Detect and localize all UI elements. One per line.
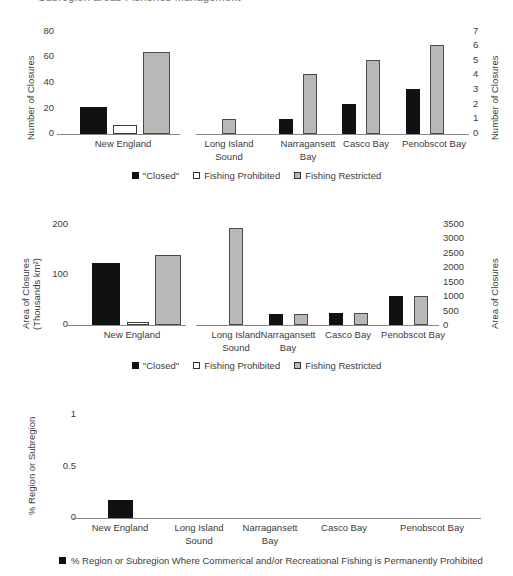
- chart2-xlabel-penobscot-bay: Penobscot Bay: [367, 329, 459, 341]
- restricted-swatch-icon: [294, 172, 301, 179]
- chart1-xlabel-narragansett-line2: Bay: [258, 151, 358, 163]
- chart-closures-area: Area of Closures (Thousands km²) Area of…: [0, 212, 513, 382]
- chart1-ytick-right-0: 0: [473, 127, 489, 138]
- chart-percent-prohibited: % Region or Subregion 1 0.5 0 New Englan…: [0, 400, 513, 576]
- chart2-ytick-right-500: 500: [443, 305, 477, 316]
- chart2-bar-narragansett-restricted: [294, 314, 308, 325]
- prohibited-swatch-icon: [193, 172, 200, 179]
- chart2-y-axis-title-left-units: (Thousands km²): [31, 240, 43, 348]
- chart2-legend: "Closed" Fishing Prohibited Fishing Rest…: [0, 360, 513, 371]
- chart2-bar-penobscot-restricted: [414, 296, 428, 325]
- chart2-legend-item-closed: "Closed": [132, 360, 179, 371]
- chart1-y-axis-title-right: Number of Closures: [490, 48, 502, 148]
- chart2-bar-long-island-sound-restricted: [229, 228, 243, 325]
- closed-swatch-icon: [59, 557, 66, 564]
- chart-closures-count: Number of Closures Number of Closures 80…: [0, 22, 513, 182]
- chart2-ytick-right-3500: 3500: [443, 218, 477, 229]
- chart2-ytick-200: 200: [40, 218, 68, 229]
- chart3-legend-label: % Region or Subregion Where Commerical a…: [71, 555, 483, 566]
- chart2-y-axis-title-right: Area of Closures: [490, 248, 502, 340]
- chart1-ytick-right-1: 1: [473, 112, 489, 123]
- chart2-ytick-right-2500: 2500: [443, 247, 477, 258]
- chart1-legend: "Closed" Fishing Prohibited Fishing Rest…: [0, 170, 513, 181]
- chart3-legend: % Region or Subregion Where Commerical a…: [59, 555, 483, 566]
- chart1-ytick-60: 60: [30, 50, 54, 61]
- chart3-xlabel-casco-bay: Casco Bay: [298, 522, 390, 534]
- chart1-ytick-0: 0: [30, 127, 54, 138]
- chart2-y-axis-title-left-text: Area of Closures: [20, 259, 31, 330]
- restricted-swatch-icon: [294, 362, 301, 369]
- closed-swatch-icon: [132, 172, 139, 179]
- chart1-legend-label-restricted: Fishing Restricted: [305, 170, 381, 181]
- prohibited-swatch-icon: [193, 362, 200, 369]
- chart3-xlabel-penobscot-bay: Penobscot Bay: [382, 522, 482, 534]
- chart1-ytick-right-7: 7: [473, 25, 489, 36]
- chart2-ytick-right-2000: 2000: [443, 261, 477, 272]
- chart2-legend-item-prohibited: Fishing Prohibited: [193, 360, 280, 371]
- document-title-clipped: Subregion areas Fisheries Management: [38, 0, 241, 3]
- chart2-bar-new-england-prohibited: [127, 322, 149, 325]
- chart1-bar-casco-bay-restricted: [366, 60, 380, 134]
- chart1-xlabel-new-england: New England: [68, 138, 178, 150]
- chart2-bar-new-england-closed: [92, 263, 120, 325]
- figure-page: Subregion areas Fisheries Management Num…: [0, 0, 513, 576]
- chart1-ytick-80: 80: [30, 25, 54, 36]
- chart1-bar-narragansett-restricted: [303, 74, 317, 134]
- chart2-bar-penobscot-closed: [389, 296, 403, 325]
- chart1-ytick-right-5: 5: [473, 54, 489, 65]
- chart1-legend-item-restricted: Fishing Restricted: [294, 170, 381, 181]
- chart2-legend-label-prohibited: Fishing Prohibited: [204, 360, 280, 371]
- chart1-bar-new-england-restricted: [143, 52, 170, 134]
- chart2-axis-left-segment: [66, 325, 186, 326]
- chart1-bar-casco-bay-closed: [342, 104, 356, 134]
- chart3-axis-baseline: [73, 518, 481, 519]
- chart1-bar-long-island-sound-restricted: [222, 119, 236, 134]
- chart2-xlabel-narragansett-line2: Bay: [238, 342, 338, 354]
- chart1-bar-narragansett-closed: [279, 119, 293, 134]
- chart1-ytick-right-2: 2: [473, 98, 489, 109]
- chart1-legend-item-prohibited: Fishing Prohibited: [193, 170, 280, 181]
- chart2-ytick-right-1000: 1000: [443, 290, 477, 301]
- chart2-bar-casco-bay-restricted: [354, 313, 368, 325]
- chart1-xlabel-penobscot-bay: Penobscot Bay: [388, 138, 480, 150]
- chart1-axis-right-segment: [196, 134, 469, 135]
- chart2-axis-right-segment: [196, 325, 439, 326]
- chart3-tickmark-0: [73, 518, 79, 519]
- chart1-ytick-40: 40: [30, 76, 54, 87]
- chart1-bar-new-england-closed: [80, 107, 107, 134]
- chart1-ytick-right-3: 3: [473, 83, 489, 94]
- chart3-ytick-0: 0: [50, 511, 76, 522]
- chart3-ytick-0point5: 0.5: [50, 460, 76, 471]
- chart2-ytick-right-1500: 1500: [443, 276, 477, 287]
- chart2-ytick-right-3000: 3000: [443, 232, 477, 243]
- chart1-ytick-20: 20: [30, 102, 54, 113]
- chart2-legend-item-restricted: Fishing Restricted: [294, 360, 381, 371]
- chart2-bar-narragansett-closed: [269, 314, 283, 325]
- chart3-y-axis-title: % Region or Subregion: [27, 410, 39, 522]
- chart1-legend-item-closed: "Closed": [132, 170, 179, 181]
- chart2-legend-label-closed: "Closed": [143, 360, 179, 371]
- chart2-ytick-0: 0: [40, 318, 68, 329]
- chart1-ytick-right-6: 6: [473, 39, 489, 50]
- chart2-ytick-100: 100: [40, 268, 68, 279]
- chart2-bar-casco-bay-closed: [329, 313, 343, 325]
- chart3-ytick-1: 1: [50, 408, 76, 419]
- chart2-xlabel-new-england: New England: [77, 329, 187, 341]
- chart2-legend-label-restricted: Fishing Restricted: [305, 360, 381, 371]
- chart2-bar-new-england-restricted: [155, 255, 181, 325]
- closed-swatch-icon: [132, 362, 139, 369]
- chart1-bar-penobscot-closed: [406, 89, 420, 134]
- chart1-ytick-right-4: 4: [473, 68, 489, 79]
- chart1-legend-label-prohibited: Fishing Prohibited: [204, 170, 280, 181]
- chart1-bar-new-england-prohibited: [113, 125, 137, 134]
- chart3-bar-new-england: [108, 500, 133, 518]
- chart1-bar-penobscot-restricted: [430, 45, 444, 134]
- chart3-xlabel-narragansett-line2: Bay: [220, 535, 320, 547]
- chart1-legend-label-closed: "Closed": [143, 170, 179, 181]
- chart1-axis-left-segment: [57, 134, 180, 135]
